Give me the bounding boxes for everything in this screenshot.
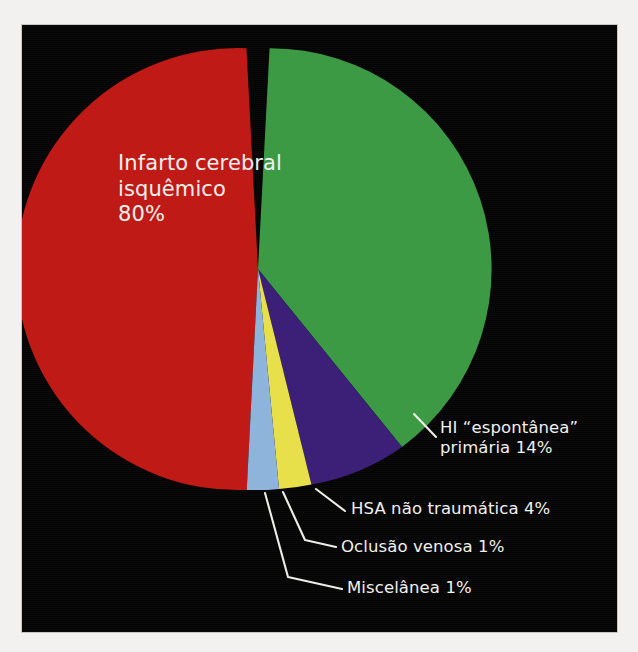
pie-chart: [0, 0, 638, 652]
pie-label-oclusao-venosa: Oclusão venosa 1%: [341, 537, 504, 557]
pie-label-hsa-nao-traumatica: HSA não traumática 4%: [351, 499, 550, 519]
figure-canvas: Infarto cerebralisquêmico80% HI “espontâ…: [0, 0, 638, 652]
pie-label-infarto-line2: isquêmico: [118, 177, 226, 201]
pie-label-misc-text: Miscelânea 1%: [347, 578, 472, 597]
pie-label-hi-line1: HI “espontânea”: [440, 418, 578, 437]
pie-label-oclusao-text: Oclusão venosa 1%: [341, 537, 504, 556]
pie-slice-infarto-cerebral-isquemico[interactable]: [16, 48, 258, 490]
pie-label-hsa-text: HSA não traumática 4%: [351, 499, 550, 518]
leader-line-hsa: [316, 489, 345, 511]
leader-line-oclusao-venosa: [283, 492, 336, 547]
pie-label-hi-espontanea: HI “espontânea”primária 14%: [440, 418, 578, 458]
leader-line-miscelanea: [265, 493, 342, 589]
pie-label-infarto-value: 80%: [118, 202, 165, 226]
pie-label-infarto-line1: Infarto cerebral: [118, 151, 282, 175]
pie-label-infarto-cerebral-isquemico: Infarto cerebralisquêmico80%: [118, 151, 282, 228]
pie-label-miscelanea: Miscelânea 1%: [347, 578, 472, 598]
pie-label-hi-line2: primária 14%: [440, 438, 553, 457]
